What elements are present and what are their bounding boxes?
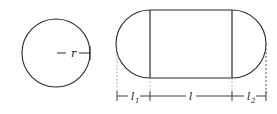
left-hemispherical-cap (116, 10, 150, 78)
right-hemispherical-cap (232, 10, 266, 78)
extension-lines-group (117, 44, 266, 93)
dimension-label-l2: l (247, 90, 250, 102)
radius-label: r (71, 47, 77, 60)
dimension-label-l1-subscript: 1 (135, 97, 139, 105)
dimension-label-l1: l (131, 90, 134, 102)
dimension-label-l: l (189, 90, 192, 102)
diagram-canvas: r (0, 0, 277, 114)
technical-diagram-capsule-geometry: r (0, 0, 277, 114)
capsule-group (116, 10, 266, 78)
dimension-label-l2-subscript: 2 (250, 97, 256, 105)
cross-section-group: r (22, 19, 90, 87)
